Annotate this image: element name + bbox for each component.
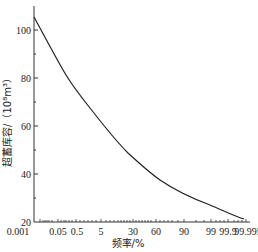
x-axis-title: 频率/% xyxy=(112,237,145,249)
y-tick-label: 100 xyxy=(16,25,31,36)
y-ticks xyxy=(34,30,38,198)
frequency-curve xyxy=(34,17,244,219)
x-tick-label: 99.995 xyxy=(234,226,258,237)
x-tick-label: 5 xyxy=(99,226,104,237)
y-tick-labels: 100 80 60 40 20 xyxy=(16,25,31,228)
x-tick-label: 90 xyxy=(179,226,189,237)
x-tick-label: 99 xyxy=(206,226,216,237)
x-tick-label: 0.05 xyxy=(49,226,67,237)
x-tick-label: 0.5 xyxy=(71,226,84,237)
x-tick-label: 0.001 xyxy=(7,226,30,237)
y-tick-label: 80 xyxy=(21,73,31,84)
frequency-curve-chart: 100 80 60 40 20 0.001 0.05 0.5 5 30 60 9… xyxy=(0,0,258,252)
y-tick-label: 40 xyxy=(21,169,31,180)
x-tick-label: 60 xyxy=(151,226,161,237)
y-axis-title: 超蓄库容/（10⁸m³） xyxy=(1,73,13,167)
y-tick-label: 60 xyxy=(21,121,31,132)
x-tick-labels: 0.001 0.05 0.5 5 30 60 90 99 99.9 99.995 xyxy=(7,226,258,237)
x-tick-label: 30 xyxy=(128,226,138,237)
